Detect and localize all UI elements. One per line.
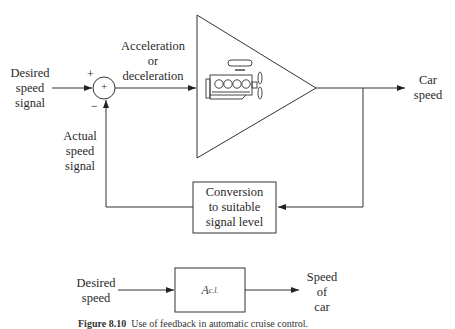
- forward-label-line: deceleration: [118, 69, 188, 84]
- caption-prefix: Figure 8.10: [78, 318, 126, 329]
- output-label: Car speed: [406, 73, 450, 103]
- summing-junction-symbol: +: [101, 80, 107, 92]
- conversion-label-line: to suitable: [193, 200, 276, 215]
- conversion-label-line: signal level: [193, 215, 276, 230]
- feedback-return-arrow: [106, 100, 193, 207]
- feedback-branch-arrow: [278, 88, 363, 207]
- minus-sign: −: [91, 99, 98, 114]
- gain-symbol: A: [201, 283, 208, 298]
- forward-label-line: Acceleration: [118, 39, 188, 54]
- bottom-input-label: Desired speed: [74, 276, 118, 306]
- conversion-box-label: Conversion to suitable signal level: [193, 185, 276, 230]
- car-engine-icon: [206, 60, 262, 99]
- forward-label-line: or: [118, 54, 188, 69]
- feedback-label-line: Actual: [58, 129, 102, 144]
- input-label-line: signal: [8, 96, 52, 111]
- closed-loop-gain-label: Ac.l.: [175, 268, 245, 312]
- conversion-label-line: Conversion: [193, 185, 276, 200]
- input-label-line: Desired: [8, 66, 52, 81]
- bottom-output-label-line: car: [300, 300, 344, 315]
- input-label-line: speed: [8, 81, 52, 96]
- input-label: Desired speed signal: [8, 66, 52, 111]
- feedback-label-line: speed: [58, 144, 102, 159]
- output-label-line: speed: [406, 88, 450, 103]
- bottom-output-label-line: Speed: [300, 270, 344, 285]
- bottom-input-label-line: speed: [74, 291, 118, 306]
- forward-signal-label: Acceleration or deceleration: [118, 39, 188, 84]
- output-label-line: Car: [406, 73, 450, 88]
- figure-caption: Figure 8.10 Use of feedback in automatic…: [78, 318, 308, 329]
- feedback-label-line: signal: [58, 159, 102, 174]
- bottom-input-label-line: Desired: [74, 276, 118, 291]
- plus-sign: +: [87, 67, 94, 82]
- gain-subscript: c.l.: [209, 286, 219, 295]
- feedback-signal-label: Actual speed signal: [58, 129, 102, 174]
- caption-text: Use of feedback in automatic cruise cont…: [131, 318, 308, 329]
- bottom-output-label: Speed of car: [300, 270, 344, 315]
- bottom-output-label-line: of: [300, 285, 344, 300]
